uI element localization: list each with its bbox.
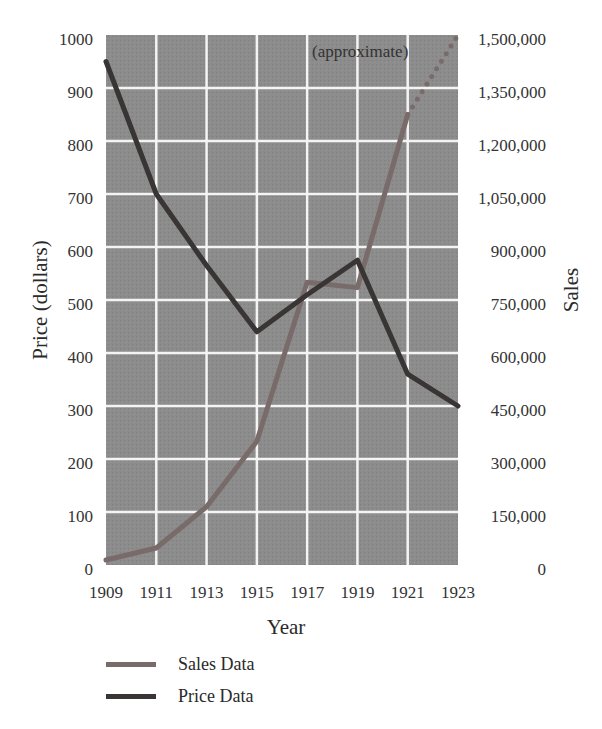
legend: Sales Data Price Data xyxy=(106,648,254,712)
svg-text:200: 200 xyxy=(68,454,94,473)
legend-item-price: Price Data xyxy=(106,680,254,712)
svg-text:600: 600 xyxy=(68,242,94,261)
x-axis-ticks: 19091911191319151917191919211923 xyxy=(89,583,475,602)
svg-text:800: 800 xyxy=(68,136,94,155)
svg-text:1909: 1909 xyxy=(89,583,123,602)
svg-text:1917: 1917 xyxy=(290,583,325,602)
svg-text:0: 0 xyxy=(85,560,94,579)
svg-text:500: 500 xyxy=(68,295,94,314)
svg-text:600,000: 600,000 xyxy=(491,348,546,367)
svg-text:1,500,000: 1,500,000 xyxy=(478,30,546,49)
svg-text:1,350,000: 1,350,000 xyxy=(478,83,546,102)
svg-text:1,200,000: 1,200,000 xyxy=(478,136,546,155)
svg-text:900,000: 900,000 xyxy=(491,242,546,261)
svg-text:300: 300 xyxy=(68,401,94,420)
left-axis-ticks: 01002003004005006007008009001000 xyxy=(59,30,93,579)
svg-text:1915: 1915 xyxy=(240,583,274,602)
x-axis-title: Year xyxy=(267,615,306,639)
svg-text:100: 100 xyxy=(68,507,94,526)
svg-text:1911: 1911 xyxy=(140,583,173,602)
svg-text:450,000: 450,000 xyxy=(491,401,546,420)
svg-text:700: 700 xyxy=(68,189,94,208)
sales-swatch-icon xyxy=(106,662,156,667)
svg-text:1913: 1913 xyxy=(190,583,224,602)
svg-text:1000: 1000 xyxy=(59,30,93,49)
svg-text:150,000: 150,000 xyxy=(491,507,546,526)
legend-label: Price Data xyxy=(178,686,253,707)
legend-label: Sales Data xyxy=(178,654,254,675)
y2-axis-title: Sales xyxy=(559,268,583,312)
svg-text:1919: 1919 xyxy=(340,583,374,602)
y-axis-title: Price (dollars) xyxy=(28,240,52,360)
right-axis-ticks: 0150,000300,000450,000600,000750,000900,… xyxy=(478,30,546,579)
svg-text:900: 900 xyxy=(68,83,94,102)
svg-text:300,000: 300,000 xyxy=(491,454,546,473)
price-swatch-icon xyxy=(106,694,156,699)
svg-text:1921: 1921 xyxy=(391,583,425,602)
svg-text:400: 400 xyxy=(68,348,94,367)
svg-text:0: 0 xyxy=(538,560,547,579)
svg-text:1923: 1923 xyxy=(441,583,475,602)
svg-text:1,050,000: 1,050,000 xyxy=(478,189,546,208)
svg-text:750,000: 750,000 xyxy=(491,295,546,314)
legend-item-sales: Sales Data xyxy=(106,648,254,680)
chart: 01002003004005006007008009001000 0150,00… xyxy=(0,0,602,640)
approximate-annotation: (approximate) xyxy=(312,42,408,61)
